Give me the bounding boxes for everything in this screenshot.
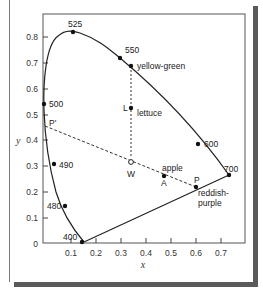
y-axis-tick-labels: 0.8 0.7 0.6 0.5 0.4 0.3 0.2 0.1 0 <box>26 32 38 249</box>
x-axis-ticks <box>71 238 221 243</box>
line-of-purples <box>84 175 229 242</box>
point-480 <box>63 204 67 208</box>
label-550: 550 <box>125 45 139 55</box>
label-w: W <box>127 169 135 179</box>
label-lettuce: lettuce <box>137 108 162 118</box>
y-tick-0: 0 <box>33 239 38 249</box>
x-axis-tick-labels: 0.1 0.2 0.3 0.4 0.5 0.6 0.7 <box>65 248 227 258</box>
y-tick-0.1: 0.1 <box>26 213 38 223</box>
y-tick-0.6: 0.6 <box>26 84 38 94</box>
point-400 <box>80 240 84 244</box>
point-white <box>129 160 134 165</box>
y-tick-0.5: 0.5 <box>26 110 38 120</box>
label-600: 600 <box>204 139 218 149</box>
label-yellow-green: yellow-green <box>137 61 185 71</box>
x-tick-0.2: 0.2 <box>90 248 102 258</box>
dashed-line-p-prime-to-p <box>45 126 196 187</box>
point-600 <box>196 142 200 146</box>
label-purple: purple <box>198 198 222 208</box>
y-tick-0.7: 0.7 <box>26 58 38 68</box>
y-tick-0.2: 0.2 <box>26 187 38 197</box>
x-tick-0.3: 0.3 <box>115 248 127 258</box>
label-l: L <box>123 103 128 113</box>
chromaticity-diagram: 0.8 0.7 0.6 0.5 0.4 0.3 0.2 0.1 0 y 0.1 … <box>0 0 263 292</box>
y-tick-0.8: 0.8 <box>26 32 38 42</box>
label-p: P <box>194 175 200 185</box>
point-lettuce <box>129 106 133 110</box>
label-400: 400 <box>63 232 77 242</box>
x-tick-0.5: 0.5 <box>165 248 177 258</box>
label-700: 700 <box>224 164 238 174</box>
x-tick-0.4: 0.4 <box>140 248 152 258</box>
label-490: 490 <box>59 160 73 170</box>
x-tick-0.1: 0.1 <box>65 248 77 258</box>
x-tick-0.7: 0.7 <box>215 248 227 258</box>
label-apple: apple <box>162 163 183 173</box>
x-axis-title: x <box>140 259 146 270</box>
label-525: 525 <box>68 19 82 29</box>
point-490 <box>52 162 56 166</box>
point-525 <box>71 30 75 34</box>
y-axis-title: y <box>15 135 21 146</box>
label-500: 500 <box>49 99 63 109</box>
y-tick-0.4: 0.4 <box>26 135 38 145</box>
y-tick-0.3: 0.3 <box>26 161 38 171</box>
label-p-prime: P' <box>49 118 57 128</box>
label-reddish: reddish- <box>198 188 229 198</box>
label-a: A <box>161 178 167 188</box>
label-480: 480 <box>47 201 61 211</box>
x-tick-0.6: 0.6 <box>190 248 202 258</box>
point-yellow-green <box>129 64 133 68</box>
point-500 <box>42 102 46 106</box>
plot-frame <box>43 14 245 243</box>
point-550 <box>118 56 122 60</box>
